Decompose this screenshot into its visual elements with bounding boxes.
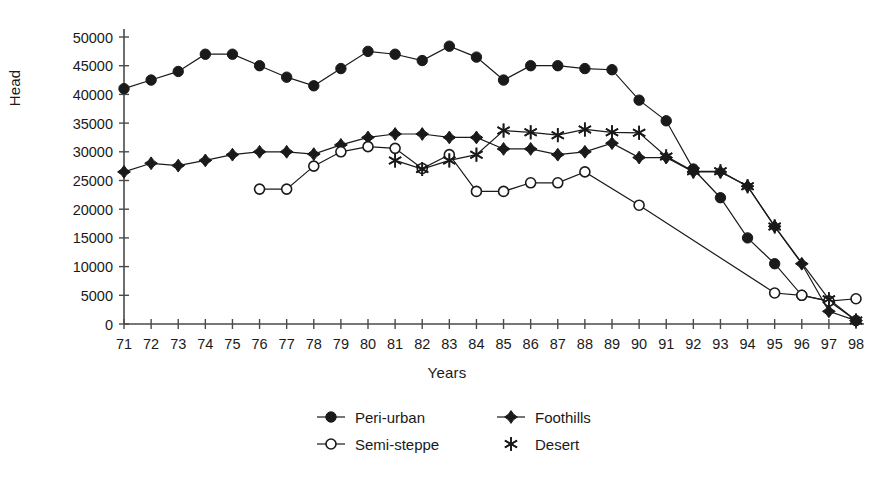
data-point-marker-filled-circle [661, 116, 671, 126]
x-axis-tick-label: 76 [251, 336, 267, 352]
x-axis-tick-label: 98 [848, 336, 864, 352]
data-point-marker-filled-circle [742, 233, 752, 243]
data-point-marker-filled-circle [227, 49, 237, 59]
data-point-marker-filled-diamond [524, 143, 537, 156]
data-point-marker-open-circle [770, 288, 780, 298]
data-point-marker-open-circle [390, 143, 400, 153]
data-point-marker-filled-diamond [253, 145, 266, 158]
x-axis-tick-label: 80 [360, 336, 376, 352]
y-axis-tick-label: 45000 [73, 58, 113, 74]
data-series-group [118, 41, 863, 328]
chart-legend: Peri-urbanFoothillsSemi-steppeDesert [317, 409, 591, 453]
x-axis-tick-label: 81 [387, 336, 403, 352]
x-axis-tick-label: 89 [604, 336, 620, 352]
data-point-marker-filled-circle [281, 72, 291, 82]
x-axis-tick-label: 97 [821, 336, 837, 352]
data-point-marker-open-circle [526, 178, 536, 188]
data-point-marker-open-circle [580, 167, 590, 177]
legend-item-semi-steppe[interactable]: Semi-steppe [317, 436, 439, 453]
data-point-marker-filled-diamond [145, 157, 158, 170]
data-point-marker-filled-circle [498, 75, 508, 85]
data-point-marker-filled-diamond [416, 128, 429, 141]
data-point-marker-open-circle [282, 184, 292, 194]
y-axis-tick-label: 25000 [73, 173, 113, 189]
x-axis-tick-label: 88 [577, 336, 593, 352]
data-point-marker-open-circle [553, 178, 563, 188]
y-axis-tick-label: 5000 [81, 288, 113, 304]
legend-item-foothills[interactable]: Foothills [497, 409, 591, 426]
y-axis-tick-labels: 0500010000150002000025000300003500040000… [73, 30, 113, 333]
data-point-marker-filled-circle [390, 49, 400, 59]
x-axis-tick-label: 95 [767, 336, 783, 352]
x-axis-tick-label: 84 [468, 336, 484, 352]
x-axis-tick-label: 82 [414, 336, 430, 352]
x-axis-tick-label: 79 [333, 336, 349, 352]
y-axis-tick-label: 10000 [73, 259, 113, 275]
legend-label: Peri-urban [355, 409, 425, 426]
line-chart: 0500010000150002000025000300003500040000… [0, 0, 894, 480]
data-point-marker-open-circle [634, 200, 644, 210]
y-axis-tick-label: 20000 [73, 202, 113, 218]
x-axis-tick-label: 78 [306, 336, 322, 352]
data-point-marker-filled-diamond [551, 148, 564, 161]
data-point-marker-filled-circle [119, 83, 129, 93]
data-point-marker-star [470, 148, 482, 162]
data-point-marker-filled-diamond [443, 131, 456, 144]
legend-label: Semi-steppe [355, 436, 439, 453]
y-axis-tick-label: 40000 [73, 87, 113, 103]
x-axis-tick-label: 93 [712, 336, 728, 352]
y-axis-tick-label: 30000 [73, 144, 113, 160]
legend-label: Foothills [535, 409, 591, 426]
y-axis-tick-label: 15000 [73, 230, 113, 246]
data-point-marker-filled-circle [417, 55, 427, 65]
data-point-marker-filled-circle [173, 66, 183, 76]
data-point-marker-filled-diamond [822, 305, 835, 318]
legend-item-desert[interactable]: Desert [505, 436, 580, 453]
x-axis-tick-labels: 7172737475767778798081828384858687888990… [116, 336, 864, 352]
data-point-marker-filled-diamond [118, 165, 131, 178]
data-point-marker-filled-circle [715, 193, 725, 203]
x-axis-tick-label: 71 [116, 336, 132, 352]
data-point-marker-filled-circle [444, 41, 454, 51]
data-point-marker-star [389, 153, 401, 167]
data-point-marker-filled-circle [769, 259, 779, 269]
x-axis-tick-label: 86 [523, 336, 539, 352]
x-axis-tick-label: 72 [143, 336, 159, 352]
data-point-marker-open-circle [471, 186, 481, 196]
data-point-marker-filled-circle [553, 60, 563, 70]
data-point-marker-filled-circle [200, 49, 210, 59]
data-point-marker-filled-diamond [280, 145, 293, 158]
data-point-marker-open-circle [851, 294, 861, 304]
data-point-marker-filled-diamond [389, 128, 402, 141]
series-foothills [118, 128, 863, 327]
data-point-marker-filled-circle [363, 46, 373, 56]
data-point-marker-open-circle [255, 184, 265, 194]
series-line [124, 134, 856, 321]
y-axis-title: Head [6, 28, 23, 148]
data-point-marker-filled-diamond [470, 131, 483, 144]
data-point-marker-filled-diamond [578, 145, 591, 158]
data-point-marker-filled-diamond [172, 159, 185, 172]
data-point-marker-filled-diamond [497, 143, 510, 156]
y-axis-tick-label: 0 [105, 317, 113, 333]
y-axis-tick-label: 50000 [73, 30, 113, 46]
x-axis-tick-label: 73 [170, 336, 186, 352]
data-point-marker-star [505, 437, 517, 451]
data-point-marker-filled-diamond [505, 411, 518, 424]
data-point-marker-filled-circle [607, 65, 617, 75]
data-point-marker-open-circle [363, 142, 373, 152]
x-axis-tick-label: 96 [794, 336, 810, 352]
chart-plot-area: 0500010000150002000025000300003500040000… [0, 0, 894, 480]
series-line [260, 147, 856, 301]
data-point-marker-filled-circle [309, 81, 319, 91]
data-point-marker-filled-circle [471, 52, 481, 62]
x-axis-title: Years [0, 364, 894, 381]
x-axis-tick-label: 77 [279, 336, 295, 352]
legend-item-peri-urban[interactable]: Peri-urban [317, 409, 425, 426]
series-line [395, 129, 856, 320]
data-point-marker-open-circle [326, 439, 336, 449]
data-point-marker-filled-diamond [307, 148, 320, 161]
x-axis-tick-label: 85 [495, 336, 511, 352]
data-point-marker-filled-circle [580, 63, 590, 73]
data-point-marker-filled-diamond [633, 151, 646, 164]
